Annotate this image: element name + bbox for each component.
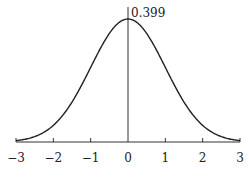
peak-value-label: 0.399 bbox=[131, 6, 165, 20]
x-tick-label: 1 bbox=[162, 151, 170, 165]
x-tick-label: 2 bbox=[199, 151, 207, 165]
x-tick-label: −1 bbox=[82, 151, 100, 165]
x-tick-label: 0 bbox=[124, 151, 132, 165]
x-tick-label: −2 bbox=[44, 151, 62, 165]
axes bbox=[16, 7, 240, 142]
x-tick-label: 3 bbox=[236, 151, 244, 165]
x-tick-label: −3 bbox=[7, 151, 25, 165]
x-tick-labels: −3−2−10123 bbox=[7, 151, 244, 165]
normal-distribution-chart: −3−2−10123 0.399 bbox=[0, 0, 249, 180]
